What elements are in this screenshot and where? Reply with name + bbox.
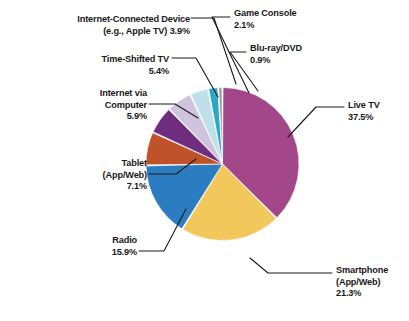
leader-line-internet-device	[191, 18, 236, 84]
slice-label-internet-computer: Internet via Computer 5.9%	[7, 88, 147, 123]
pie-slices-group	[146, 88, 299, 241]
slice-label-smartphone: Smartphone (App/Web) 21.3%	[336, 265, 409, 300]
slice-label-bluray-dvd: Blu-ray/DVD 0.9%	[250, 43, 405, 66]
slice-label-time-shifted-tv: Time-Shifted TV 5.4%	[7, 54, 169, 77]
slice-label-internet-device: Internet-Connected Device (e.g., Apple T…	[8, 14, 190, 37]
leader-line-smartphone	[250, 258, 332, 273]
slice-label-game-console: Game Console 2.1%	[234, 8, 404, 31]
slice-label-radio: Radio 15.9%	[7, 235, 137, 258]
pie-chart-figure: Internet-Connected Device (e.g., Apple T…	[0, 0, 409, 321]
leader-line-live-tv	[288, 107, 344, 137]
slice-label-live-tv: Live TV 37.5%	[348, 100, 408, 123]
slice-label-tablet: Tablet (App/Web) 7.1%	[7, 158, 147, 193]
